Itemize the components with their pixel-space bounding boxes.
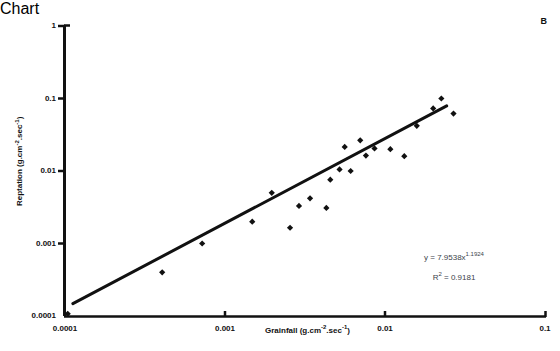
data-point-marker [348,168,354,174]
x-axis-title: Grainfall (g.cm-2.sec-1) [265,324,350,335]
data-point-marker [287,225,293,231]
figure-panel-b: B Reptation (g.cm-2.sec-1) Grainfall (g.… [0,0,560,351]
y-axis-title-sup2: -1 [14,119,20,124]
y-tick-label: 0.01 [40,166,56,175]
regression-line-segment [73,106,447,304]
y-axis-title-name: Reptation (g.cm [15,146,24,206]
fit-equation-lead: y = 7.9538x [424,253,466,262]
data-point-marker [363,153,369,159]
y-axis-title-sup1: -2 [14,140,20,145]
regression-line [73,106,447,304]
data-point-marker [159,269,165,275]
data-point-marker [438,95,444,101]
data-point-marker [401,153,407,159]
regression-annotation: y = 7.9538x1.1924 R2 = 0.9181 [398,246,510,285]
data-point-marker [323,205,329,211]
scatter-plot-canvas [0,0,560,351]
fit-equation: y = 7.9538x1.1924 [398,246,510,266]
x-axis-title-mid: .sec [326,326,342,335]
x-tick-label: 0.01 [363,324,407,333]
x-axis-title-name: Grainfall (g.cm [265,326,321,335]
data-point-marker [342,144,348,150]
data-point-marker [307,195,313,201]
y-tick-label: 0.1 [45,94,56,103]
data-point-marker [327,177,333,183]
data-point-marker [336,166,342,172]
data-point-marker [249,219,255,225]
y-tick-label: 0.0001 [32,311,56,320]
data-point-marker [357,137,363,143]
x-tick-label: 0.1 [523,324,560,333]
fit-r-squared-tail: = 0.9181 [442,272,476,281]
fit-equation-exponent: 1.1924 [466,251,484,257]
y-axis-title-mid: .sec [15,125,24,141]
y-tick-label: 0.001 [36,239,56,248]
fit-r-squared: R2 = 0.9181 [398,266,510,286]
x-tick-label: 0.001 [203,324,247,333]
panel-label: B [541,16,548,26]
y-axis-title: Reptation (g.cm-2.sec-1) [14,81,25,241]
data-point-marker [296,203,302,209]
y-axis-title-tail: ) [15,117,24,120]
x-tick-label: 0.0001 [43,324,87,333]
data-point-marker [269,190,275,196]
data-point-marker [450,110,456,116]
x-axis-title-tail: ) [347,326,350,335]
data-point-marker [387,146,393,152]
y-tick-label: 1 [52,21,56,30]
data-point-marker [199,240,205,246]
